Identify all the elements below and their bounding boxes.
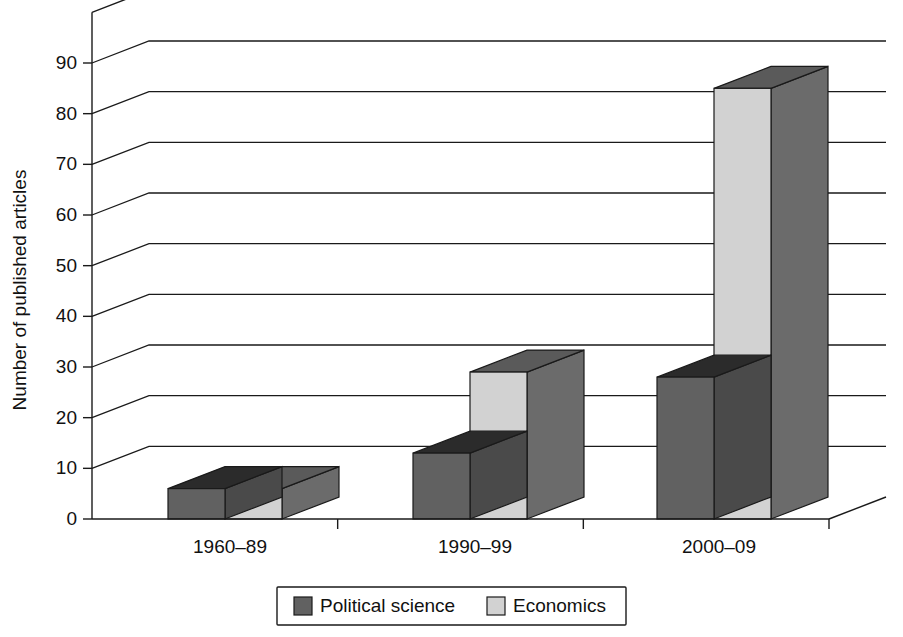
y-tick-label-30: 30 bbox=[56, 356, 77, 377]
y-tick-label-20: 20 bbox=[56, 407, 77, 428]
bar-chart-3d: 0102030405060708090 1960–891990–992000–0… bbox=[0, 0, 903, 637]
y-tick-label-0: 0 bbox=[66, 508, 77, 529]
bar-200009-series0 bbox=[657, 355, 771, 519]
y-tick-label-80: 80 bbox=[56, 103, 77, 124]
bars bbox=[168, 66, 828, 519]
legend-swatch-economics bbox=[487, 597, 505, 615]
x-category-label-0: 1960–89 bbox=[193, 536, 267, 557]
y-tick-label-90: 90 bbox=[56, 52, 77, 73]
chart-legend: Political science Economics bbox=[277, 587, 626, 625]
y-axis-title: Number of published articles bbox=[9, 170, 30, 411]
bar-side-face bbox=[771, 66, 828, 519]
bar-front-face bbox=[168, 489, 225, 519]
bar-side-face bbox=[527, 350, 584, 519]
gridline-90 bbox=[92, 41, 886, 63]
bar-front-face bbox=[413, 453, 470, 519]
floor-right-depth-edge bbox=[829, 497, 886, 519]
y-tick-label-60: 60 bbox=[56, 204, 77, 225]
y-tick-label-10: 10 bbox=[56, 457, 77, 478]
legend-label-political-science: Political science bbox=[320, 595, 455, 616]
y-tick-label-40: 40 bbox=[56, 305, 77, 326]
x-category-label-1: 1990–99 bbox=[438, 536, 512, 557]
x-axis-categories: 1960–891990–992000–09 bbox=[193, 519, 829, 557]
legend-swatch-political-science bbox=[294, 597, 312, 615]
bar-side-face bbox=[714, 355, 771, 519]
bar-front-face bbox=[657, 377, 714, 519]
y-tick-label-70: 70 bbox=[56, 153, 77, 174]
x-category-label-2: 2000–09 bbox=[682, 536, 756, 557]
chart-container: 0102030405060708090 1960–891990–992000–0… bbox=[0, 0, 903, 637]
y-tick-label-50: 50 bbox=[56, 255, 77, 276]
y-axis-ticks: 0102030405060708090 bbox=[56, 52, 92, 529]
legend-label-economics: Economics bbox=[513, 595, 606, 616]
chart-top-edge bbox=[92, 0, 886, 12]
